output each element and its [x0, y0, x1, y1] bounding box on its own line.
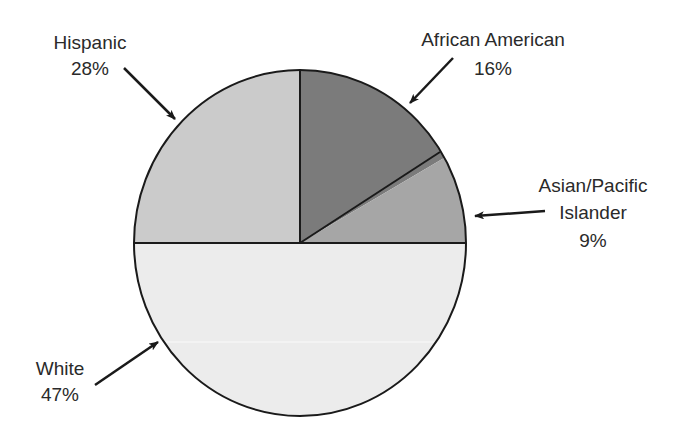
pie-chart: Hispanic 28% African American 16% Asian/…	[0, 0, 688, 437]
label-asian-pacific-islander-value: 9%	[579, 230, 607, 251]
slice-hispanic	[120, 60, 300, 243]
label-african-american-value: 16%	[474, 58, 512, 79]
label-asian-pacific: Asian/Pacific	[539, 175, 648, 196]
label-white-value: 47%	[41, 384, 79, 405]
label-asian-islander: Islander	[559, 202, 627, 223]
label-white: White	[36, 358, 85, 379]
label-hispanic: Hispanic	[54, 32, 127, 53]
label-hispanic-value: 28%	[71, 58, 109, 79]
label-african-american: African American	[421, 29, 565, 50]
slice-white	[120, 243, 480, 433]
pie-slices	[120, 50, 520, 433]
arrow-asian-pacific-islander-icon	[475, 211, 545, 216]
arrow-african-american-icon	[410, 58, 453, 103]
arrow-white-icon	[95, 342, 158, 385]
arrow-hispanic-icon	[124, 68, 175, 119]
